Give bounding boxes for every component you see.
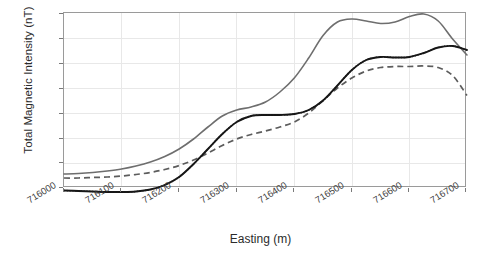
x-tick-mark bbox=[351, 188, 352, 192]
x-tick-label-716000: 716000 bbox=[25, 179, 58, 205]
x-axis-title-text: Easting (m) bbox=[192, 232, 291, 246]
series-lower-black-solid bbox=[64, 46, 467, 192]
x-tick-mark bbox=[178, 188, 179, 192]
x-tick-mark bbox=[465, 188, 466, 192]
plot-area bbox=[63, 12, 466, 187]
data-curves bbox=[64, 13, 467, 188]
x-tick-mark bbox=[63, 188, 64, 192]
x-tick-mark bbox=[236, 188, 237, 192]
figure: Total Magnetic Intensity (nT) 53900 5385… bbox=[0, 0, 483, 258]
x-tick-mark bbox=[120, 188, 121, 192]
series-lower-black-dotted bbox=[64, 46, 467, 192]
series-upper-gray-solid bbox=[64, 14, 467, 174]
x-tick-mark bbox=[408, 188, 409, 192]
series-middle-gray-dashed bbox=[64, 66, 467, 178]
x-axis-title: Easting (m) bbox=[0, 232, 483, 246]
y-axis-title: Total Magnetic Intensity (nT) bbox=[22, 0, 34, 170]
x-tick-mark bbox=[293, 188, 294, 192]
